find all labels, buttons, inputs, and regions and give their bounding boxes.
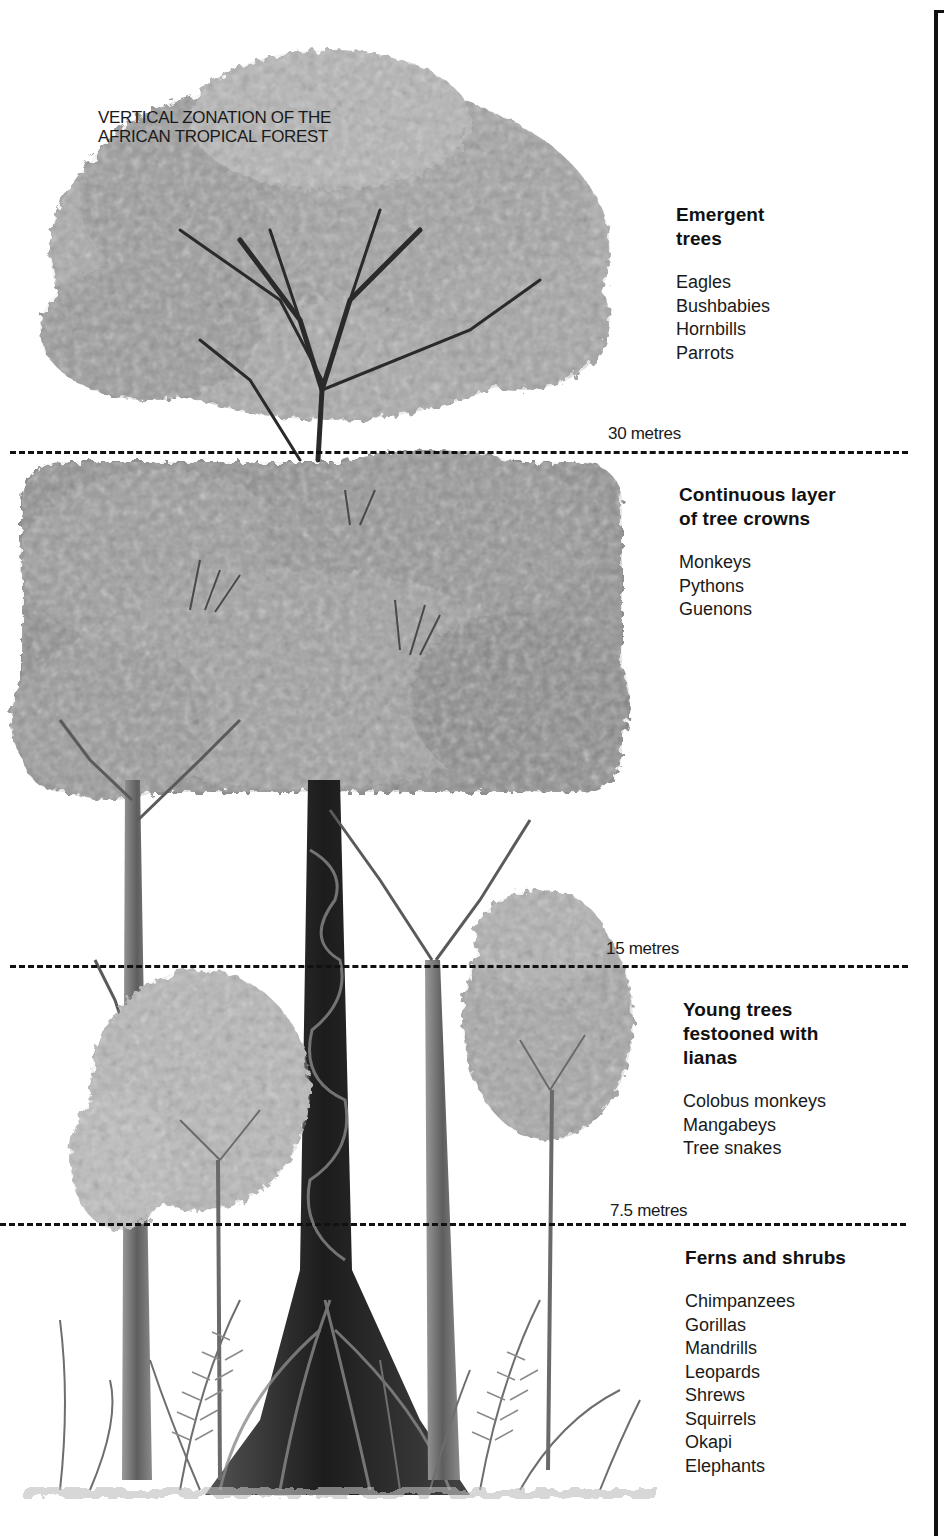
zone-title: Ferns and shrubs [685,1246,846,1270]
fauna-item: Eagles [676,271,770,295]
title-line-2: AFRICAN TROPICAL FOREST [98,127,331,146]
fauna-item: Squirrels [685,1408,846,1432]
divider-30m [10,451,908,454]
fauna-item: Colobus monkeys [683,1090,826,1114]
height-label-15m: 15 metres [606,939,679,959]
fauna-item: Gorillas [685,1314,846,1338]
fauna-item: Parrots [676,342,770,366]
diagram-title: VERTICAL ZONATION OF THE AFRICAN TROPICA… [98,108,331,146]
zone-young-trees: Young trees festooned with lianas Colobu… [683,998,826,1161]
zone-title: Continuous layer of tree crowns [679,483,836,531]
divider-7-5m [0,1223,906,1226]
fauna-item: Guenons [679,598,836,622]
fauna-item: Pythons [679,575,836,599]
fauna-item: Shrews [685,1384,846,1408]
fauna-item: Hornbills [676,318,770,342]
fauna-list: Monkeys Pythons Guenons [679,551,836,622]
zone-canopy-layer: Continuous layer of tree crowns Monkeys … [679,483,836,622]
emergent-crown [40,50,610,420]
fauna-item: Mandrills [685,1337,846,1361]
fauna-item: Chimpanzees [685,1290,846,1314]
fauna-item: Bushbabies [676,295,770,319]
zone-ferns-shrubs: Ferns and shrubs Chimpanzees Gorillas Ma… [685,1246,846,1478]
fauna-item: Monkeys [679,551,836,575]
fauna-list: Colobus monkeys Mangabeys Tree snakes [683,1090,826,1161]
fauna-item: Mangabeys [683,1114,826,1138]
fauna-item: Elephants [685,1455,846,1479]
height-label-30m: 30 metres [608,424,681,444]
fauna-item: Leopards [685,1361,846,1385]
zone-title: Young trees festooned with lianas [683,998,826,1070]
frame-right-edge [934,10,938,1536]
divider-15m [10,965,908,968]
fauna-list: Chimpanzees Gorillas Mandrills Leopards … [685,1290,846,1478]
zone-title: Emergent trees [676,203,770,251]
zone-emergent-trees: Emergent trees Eagles Bushbabies Hornbil… [676,203,770,365]
height-label-7-5m: 7.5 metres [610,1201,687,1221]
fauna-list: Eagles Bushbabies Hornbills Parrots [676,271,770,365]
canopy-layer [10,450,630,800]
fauna-item: Okapi [685,1431,846,1455]
title-line-1: VERTICAL ZONATION OF THE [98,108,331,127]
fauna-item: Tree snakes [683,1137,826,1161]
